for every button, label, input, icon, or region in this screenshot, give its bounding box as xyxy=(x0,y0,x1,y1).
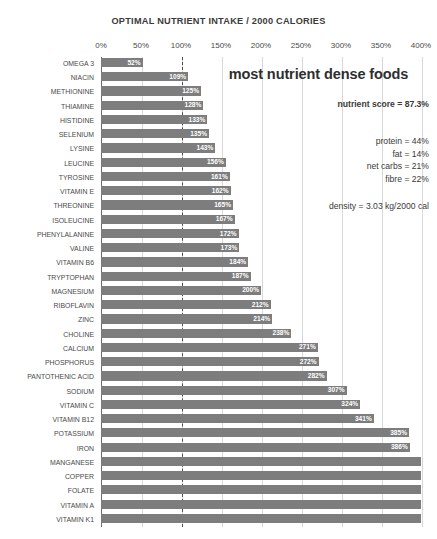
bar-row: 272% xyxy=(101,356,421,370)
annotation-density: density = 3.03 kg/2000 cal xyxy=(204,201,429,211)
category-label: NIACIN xyxy=(71,71,94,85)
bar-value-label: 125% xyxy=(182,86,201,96)
bar-value-label: 385% xyxy=(390,428,409,438)
category-label: VALINE xyxy=(70,242,94,256)
bar-row: 200% xyxy=(101,285,421,299)
bar-value-label: 167% xyxy=(216,214,235,224)
bar-row xyxy=(101,470,421,484)
bar-row: 162% xyxy=(101,185,421,199)
bar xyxy=(101,443,410,452)
x-axis-tick: 400% xyxy=(411,41,431,50)
category-label: MAGNESIUM xyxy=(52,285,95,299)
bar xyxy=(101,514,421,523)
bar xyxy=(101,371,327,380)
category-label: LEUCINE xyxy=(64,157,94,171)
bar-value-label: 386% xyxy=(391,442,410,452)
category-label: TYROSINE xyxy=(59,171,94,185)
bar-row: 282% xyxy=(101,370,421,384)
bar-value-label: 272% xyxy=(300,357,319,367)
bar-value-label: 271% xyxy=(299,342,318,352)
bar xyxy=(101,400,360,409)
category-label: CHOLINE xyxy=(63,328,94,342)
bar-value-label: 184% xyxy=(229,257,248,267)
bar-value-label: 128% xyxy=(185,100,204,110)
x-axis-tick: 250% xyxy=(291,41,311,50)
bar-value-label: 200% xyxy=(242,285,261,295)
gridline xyxy=(422,57,423,527)
category-label: THREONINE xyxy=(53,199,94,213)
category-label: VITAMIN B12 xyxy=(52,413,94,427)
bar-row: 324% xyxy=(101,399,421,413)
nutrient-bar-chart: OPTIMAL NUTRIENT INTAKE / 2000 CALORIES … xyxy=(0,0,437,539)
category-label: POTASSIUM xyxy=(54,427,94,441)
bar-value-label: 212% xyxy=(252,300,271,310)
category-label: SODIUM xyxy=(66,385,94,399)
bar xyxy=(101,500,421,509)
bar-row xyxy=(101,499,421,513)
category-label: SELENIUM xyxy=(59,128,94,142)
bar-value-label: 109% xyxy=(169,72,188,82)
bars-container: 52%109%125%128%133%135%143%156%161%162%1… xyxy=(101,57,421,527)
bar xyxy=(101,257,248,266)
annotation-macro-line: fibre = 22% xyxy=(204,173,429,186)
category-label: METHIONINE xyxy=(51,85,94,99)
x-axis-tick: 0% xyxy=(95,41,107,50)
category-axis-labels: OMEGA 3NIACINMETHIONINETHIAMINEHISTIDINE… xyxy=(0,57,98,527)
bar-value-label: 282% xyxy=(308,371,327,381)
x-axis-tick: 50% xyxy=(133,41,149,50)
bar-row: 386% xyxy=(101,442,421,456)
category-label: THIAMINE xyxy=(61,100,94,114)
category-label: VITAMIN A xyxy=(60,499,94,513)
bar-row: 187% xyxy=(101,271,421,285)
category-label: VITAMIN C xyxy=(60,399,94,413)
category-label: LYSINE xyxy=(70,142,94,156)
bar-value-label: 173% xyxy=(221,243,240,253)
category-label: RIBOFLAVIN xyxy=(54,299,94,313)
bar xyxy=(101,329,291,338)
category-label: ISOLEUCINE xyxy=(52,214,94,228)
bar-row xyxy=(101,456,421,470)
x-axis-tick-labels: 0%50%100%150%200%250%300%350%400% xyxy=(0,41,437,53)
category-label: HISTIDINE xyxy=(60,114,94,128)
category-label: TRYPTOPHAN xyxy=(47,271,94,285)
annotation-headline: most nutrient dense foods xyxy=(204,66,433,82)
bar-row: 238% xyxy=(101,328,421,342)
category-label: VITAMIN E xyxy=(60,185,94,199)
bar xyxy=(101,272,251,281)
bar xyxy=(101,386,347,395)
bar xyxy=(101,428,409,437)
bar-value-label: 187% xyxy=(232,271,251,281)
bar xyxy=(101,215,235,224)
bar xyxy=(101,229,239,238)
x-axis-tick: 200% xyxy=(251,41,271,50)
bar-value-label: 307% xyxy=(328,385,347,395)
bar-row: 341% xyxy=(101,413,421,427)
bar-row xyxy=(101,484,421,498)
bar-value-label: 133% xyxy=(189,115,208,125)
bar xyxy=(101,300,271,309)
x-axis-tick: 150% xyxy=(211,41,231,50)
bar xyxy=(101,457,421,466)
bar-row xyxy=(101,513,421,527)
category-label: PHOSPHORUS xyxy=(45,356,94,370)
bar-row: 385% xyxy=(101,427,421,441)
category-label: ZINC xyxy=(78,313,94,327)
x-axis-tick: 100% xyxy=(171,41,191,50)
bar xyxy=(101,314,272,323)
category-label: VITAMIN K1 xyxy=(56,513,94,527)
annotation-nutrient-score: nutrient score = 87.3% xyxy=(204,99,429,109)
bar xyxy=(101,343,318,352)
annotation-macro-line: fat = 14% xyxy=(204,148,429,161)
bar-row: 133% xyxy=(101,114,421,128)
plot-area: 52%109%125%128%133%135%143%156%161%162%1… xyxy=(101,57,421,527)
bar-row: 167% xyxy=(101,214,421,228)
bar-row: 212% xyxy=(101,299,421,313)
bar-row: 125% xyxy=(101,85,421,99)
chart-title: OPTIMAL NUTRIENT INTAKE / 2000 CALORIES xyxy=(0,16,437,26)
annotation-macro-line: net carbs = 21% xyxy=(204,160,429,173)
bar-value-label: 324% xyxy=(341,399,360,409)
bar-row: 173% xyxy=(101,242,421,256)
bar xyxy=(101,471,421,480)
category-label: VITAMIN B6 xyxy=(56,256,94,270)
x-axis-tick: 350% xyxy=(371,41,391,50)
